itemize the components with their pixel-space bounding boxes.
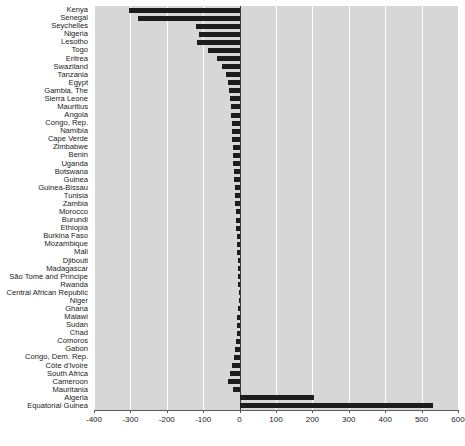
bar-row [94,353,458,361]
bar-row [94,192,458,200]
x-tick-label: 600 [451,415,464,424]
bar [231,104,240,109]
bar-row [94,22,458,30]
bar-row [94,361,458,369]
bar-row [94,159,458,167]
bar-row [94,256,458,264]
bar [229,88,240,93]
bar-row [94,54,458,62]
bar [238,266,240,271]
bar-row [94,119,458,127]
bar-row [94,345,458,353]
x-axis: -400-300-200-1000100200300400500600 [94,410,458,434]
bar-row [94,394,458,402]
bar-rows [94,6,458,410]
x-tick-label: -400 [86,415,102,424]
y-axis-label: Eritrea [66,55,88,63]
bar-row [94,337,458,345]
bar-row [94,232,458,240]
bar-row [94,79,458,87]
bar [240,403,433,408]
bar-row [94,176,458,184]
bar [238,306,240,311]
bar [228,379,240,384]
bar [238,274,239,279]
y-axis-label: Congo, Dem. Rep. [25,353,88,361]
x-tick-label: 300 [342,415,355,424]
bar [233,153,240,158]
bar-row [94,313,458,321]
bar [234,169,240,174]
x-tick-label: -100 [195,415,211,424]
bar [235,201,239,206]
bar-row [94,289,458,297]
bar [231,113,240,118]
bar [230,96,240,101]
bar [236,209,240,214]
bar [238,258,240,263]
bar-row [94,329,458,337]
bar [232,363,239,368]
bar-row [94,168,458,176]
bar [236,226,239,231]
y-axis-label: Benin [69,151,88,159]
bar-row [94,151,458,159]
bar [129,8,239,13]
x-tick [385,410,386,413]
x-tick-label: -200 [159,415,175,424]
bar-row [94,111,458,119]
bar-row [94,297,458,305]
bar [240,395,315,400]
bar [237,323,240,328]
bar [237,250,239,255]
x-tick-label: -300 [122,415,138,424]
bar-row [94,14,458,22]
x-tick [422,410,423,413]
bar [233,145,240,150]
bar [234,177,239,182]
bar-row [94,95,458,103]
bar-row [94,216,458,224]
bar [234,355,240,360]
bar-row [94,370,458,378]
bar [233,161,239,166]
bar-row [94,321,458,329]
bar [239,298,240,303]
bar [230,371,239,376]
bar [232,121,240,126]
bar [199,32,239,37]
bar-row [94,6,458,14]
y-axis-label: Equatorial Guinea [27,402,88,410]
bar [235,193,240,198]
bar [235,185,240,190]
bar-row [94,38,458,46]
bar [196,24,239,29]
bar-row [94,378,458,386]
bar [235,347,239,352]
y-axis-label: Togo [72,46,88,54]
bar-row [94,143,458,151]
bar-row [94,402,458,410]
bar [222,64,239,69]
x-tick [312,410,313,413]
bar-row [94,386,458,394]
bar-row [94,224,458,232]
x-tick-label: 400 [379,415,392,424]
bar-row [94,240,458,248]
bar-row [94,127,458,135]
y-axis-label: Mali [74,248,88,256]
bar [237,242,240,247]
y-axis-label: Côte d'Ivoire [46,362,88,370]
x-tick [240,410,241,413]
bar-row [94,46,458,54]
y-axis-label: Uganda [61,160,88,168]
bar [236,218,240,223]
bar-row [94,281,458,289]
bar [226,72,239,77]
x-tick [167,410,168,413]
bar [232,137,239,142]
x-tick [276,410,277,413]
y-axis-category-labels: KenyaSenegalSeychellesNigeriaLesothoTogo… [0,6,92,410]
bar [138,16,239,21]
